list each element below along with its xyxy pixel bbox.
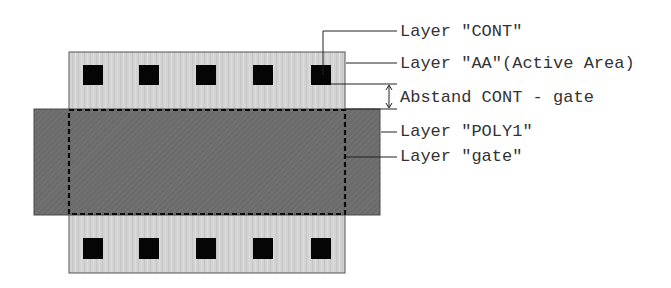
double-arrow-icon: [386, 85, 392, 108]
contact: [311, 238, 331, 259]
contact: [253, 238, 273, 259]
layout-diagram: [0, 0, 671, 288]
label-active-area-layer: Layer "AA"(Active Area): [400, 55, 635, 72]
label-abstand-cont-gate: Abstand CONT - gate: [400, 89, 594, 106]
contact: [196, 65, 216, 85]
contact: [253, 65, 273, 85]
poly1-layer: [34, 109, 380, 215]
label-cont-layer: Layer "CONT": [400, 23, 522, 40]
contact: [311, 65, 331, 85]
label-gate-layer: Layer "gate": [400, 148, 522, 165]
contact: [83, 238, 103, 259]
label-poly1-layer: Layer "POLY1": [400, 123, 533, 140]
contact: [139, 65, 159, 85]
contact: [139, 238, 159, 259]
contact: [83, 65, 103, 85]
contact: [196, 238, 216, 259]
